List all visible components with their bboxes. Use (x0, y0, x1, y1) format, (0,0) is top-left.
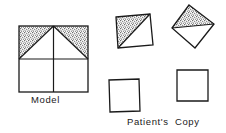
patient-copy-shape-1 (116, 14, 153, 48)
patient-copy-shape-2 (172, 5, 214, 48)
patient-copy-4-outline (177, 70, 208, 101)
patient-copy-shape-3 (109, 79, 140, 112)
figure-drawing (0, 0, 226, 133)
model-figure (19, 26, 88, 92)
patient-copy-caption: Patient's Copy (127, 117, 200, 127)
patient-copy-shape-4 (177, 70, 208, 101)
model-caption: Model (31, 95, 60, 105)
patient-copy-3-outline (109, 79, 140, 112)
figure-canvas: Model Patient's Copy (0, 0, 226, 133)
